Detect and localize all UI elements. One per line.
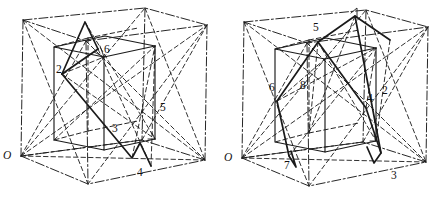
right-vertex-label-5: 5 <box>313 22 319 34</box>
left-vertex-label-2: 2 <box>56 64 62 76</box>
right-origin-label: O <box>224 152 232 164</box>
left-origin-label: O <box>3 150 11 162</box>
left-vertex-label-5: 5 <box>160 102 166 114</box>
geometry-drawing <box>0 0 442 201</box>
left-vertex-label-6: 6 <box>104 44 110 56</box>
left-panel-group <box>21 8 207 184</box>
right-vertex-label-8: 8 <box>300 80 306 92</box>
right-vertex-label-4: 4 <box>367 93 373 105</box>
left-vertex-label-3: 3 <box>112 123 118 135</box>
right-vertex-label-7: 7 <box>284 160 290 172</box>
right-construction-lines <box>242 10 428 186</box>
left-vertex-label-4: 4 <box>137 167 143 179</box>
right-vertex-label-2: 2 <box>382 85 388 97</box>
right-vertex-label-3: 3 <box>391 170 397 182</box>
figure-canvas: O 2 6 3 5 4 O 5 6 8 4 2 7 3 <box>0 0 442 201</box>
right-vertex-label-6: 6 <box>269 82 275 94</box>
left-construction-lines <box>21 8 207 184</box>
right-panel-group <box>242 8 428 186</box>
right-inner-rays <box>277 16 390 156</box>
